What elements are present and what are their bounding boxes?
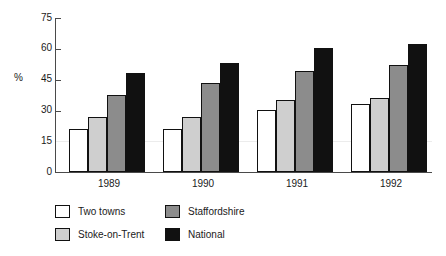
y-tick-60: 60: [30, 43, 52, 53]
x-axis-line: [55, 172, 432, 173]
bar-1991-staffordshire: [295, 71, 314, 172]
bar-1992-stoke-on-trent: [370, 98, 389, 172]
bar-1990-two-towns: [163, 129, 182, 172]
y-tick-75: 75: [30, 13, 52, 23]
legend-label-two-towns: Two towns: [78, 206, 125, 218]
bar-1991-stoke-on-trent: [276, 100, 295, 172]
y-tick-45: 45: [30, 74, 52, 84]
y-axis-label: %: [14, 72, 23, 84]
y-tick-30: 30: [30, 105, 52, 115]
bar-groups: [55, 18, 432, 172]
legend-item-staffordshire: Staffordshire: [165, 205, 245, 218]
black-swatch-icon: [165, 228, 180, 241]
bar-chart: % 75 60 45 30 15 0: [0, 0, 446, 256]
bar-1992-staffordshire: [389, 65, 408, 172]
x-tick-1991: 1991: [257, 178, 337, 190]
bar-1989-stoke-on-trent: [88, 117, 107, 172]
y-tick-0: 0: [30, 167, 52, 177]
chart-legend: Two towns Stoke-on-Trent Staffordshire N…: [55, 205, 355, 251]
bar-1990-staffordshire: [201, 83, 220, 172]
bar-1990-stoke-on-trent: [182, 117, 201, 172]
y-tick-15: 15: [30, 136, 52, 146]
plot-area: % 75 60 45 30 15 0: [0, 0, 446, 195]
x-tick-1989: 1989: [69, 178, 149, 190]
white-swatch-icon: [55, 205, 70, 218]
legend-label-staffordshire: Staffordshire: [188, 206, 245, 218]
bar-1990-national: [220, 63, 239, 172]
y-axis-tick-labels: 75 60 45 30 15 0: [26, 0, 52, 195]
legend-item-stoke-on-trent: Stoke-on-Trent: [55, 228, 144, 241]
bar-1989-national: [126, 73, 145, 172]
mid-gray-swatch-icon: [165, 205, 180, 218]
bar-1991-two-towns: [257, 110, 276, 172]
bar-1991-national: [314, 48, 333, 172]
bar-1989-two-towns: [69, 129, 88, 172]
legend-label-national: National: [188, 229, 225, 241]
bar-1989-staffordshire: [107, 95, 126, 172]
x-tick-1990: 1990: [163, 178, 243, 190]
legend-item-national: National: [165, 228, 225, 241]
bar-1992-national: [408, 44, 427, 172]
x-tick-1992: 1992: [351, 178, 431, 190]
legend-label-stoke-on-trent: Stoke-on-Trent: [78, 229, 144, 241]
legend-item-two-towns: Two towns: [55, 205, 125, 218]
bar-1992-two-towns: [351, 104, 370, 172]
light-gray-swatch-icon: [55, 228, 70, 241]
